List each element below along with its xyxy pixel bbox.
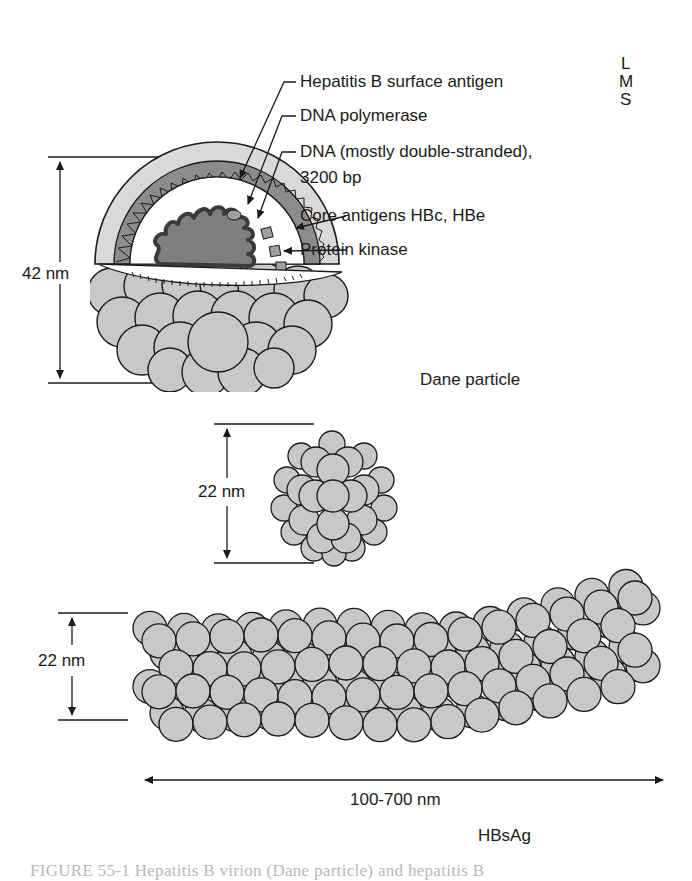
filament-subunit <box>601 670 635 704</box>
filament-subunit <box>482 610 516 644</box>
antigen-form-m: M <box>619 72 633 92</box>
filament-subunit <box>142 675 176 709</box>
filament-subunit <box>176 674 210 708</box>
hbsag-title: HBsAg <box>478 826 531 846</box>
filament-subunit <box>244 618 278 652</box>
dane-size-label: 42 nm <box>20 264 71 284</box>
dna-polymerase-blob <box>227 210 241 220</box>
filament-subunit <box>380 675 414 709</box>
filament-subunit <box>227 703 261 737</box>
antigen-form-s: S <box>620 90 631 110</box>
protein-kinase-square <box>261 227 273 239</box>
filament-subunit <box>533 684 567 718</box>
label-surface-antigen: Hepatitis B surface antigen <box>300 72 503 92</box>
filament-subunits <box>133 570 660 742</box>
filament-subunit <box>295 647 329 681</box>
filament-subunit <box>363 708 397 742</box>
filament-subunit <box>210 619 244 653</box>
antigen-form-l: L <box>621 54 630 74</box>
filament-subunit <box>465 698 499 732</box>
filament-subunit <box>295 703 329 737</box>
filament-subunit <box>329 646 363 680</box>
sphere-size-label: 22 nm <box>196 482 247 502</box>
label-protein-kinase: Protein kinase <box>300 240 408 260</box>
filament-subunit <box>499 691 533 725</box>
filament-size-label: 22 nm <box>36 651 87 671</box>
label-dna-polymerase: DNA polymerase <box>300 106 428 126</box>
filament-subunit <box>261 702 295 736</box>
protein-kinase-square <box>269 245 281 257</box>
filament-subunit <box>567 677 601 711</box>
filament-length-label: 100-700 nm <box>350 790 441 810</box>
dane-particle-title: Dane particle <box>420 370 520 390</box>
sphere-subunits <box>271 431 397 566</box>
filament-subunit <box>618 633 652 667</box>
filament-subunit <box>448 617 482 651</box>
figure-caption: FIGURE 55-1 Hepatitis B virion (Dane par… <box>30 861 484 881</box>
dane-particle <box>48 82 348 396</box>
filament-subunit <box>397 708 431 742</box>
label-core-antigens: Core antigens HBc, HBe <box>300 206 485 226</box>
filament-subunit <box>159 707 193 741</box>
filament-subunit <box>193 705 227 739</box>
filament-subunit <box>431 705 465 739</box>
label-dna: DNA (mostly double-stranded), <box>300 142 532 162</box>
filament-subunit <box>414 674 448 708</box>
filamentous-particle <box>58 570 663 781</box>
filament-subunit <box>329 706 363 740</box>
label-dna-size: 3200 bp <box>300 168 361 188</box>
